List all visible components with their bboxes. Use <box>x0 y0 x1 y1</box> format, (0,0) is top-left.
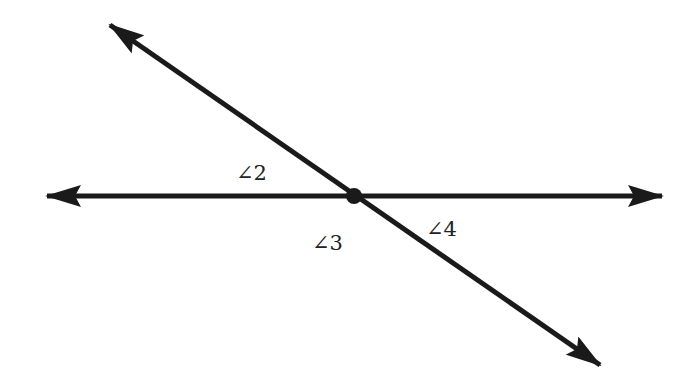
diagram-canvas: ∠2 ∠3 ∠4 <box>0 0 688 382</box>
angle-4-label: ∠4 <box>426 217 457 241</box>
angle-3-label: ∠3 <box>312 231 343 255</box>
angle-2-label: ∠2 <box>236 161 267 185</box>
intersection-point <box>346 188 362 204</box>
